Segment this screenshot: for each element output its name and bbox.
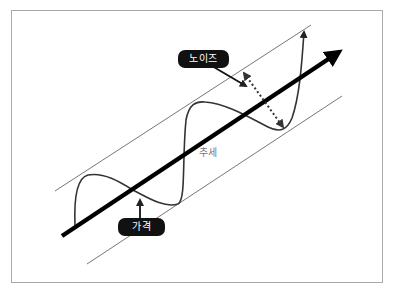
trend-noise-diagram bbox=[0, 0, 394, 294]
noise-label: 노이즈 bbox=[178, 50, 229, 68]
noise-span-arrow bbox=[244, 73, 283, 127]
lower-channel-line bbox=[87, 96, 342, 264]
trend-label: 추세 bbox=[199, 144, 217, 159]
price-label: 가격 bbox=[118, 218, 165, 236]
noise-pointer-arrow bbox=[212, 66, 246, 86]
